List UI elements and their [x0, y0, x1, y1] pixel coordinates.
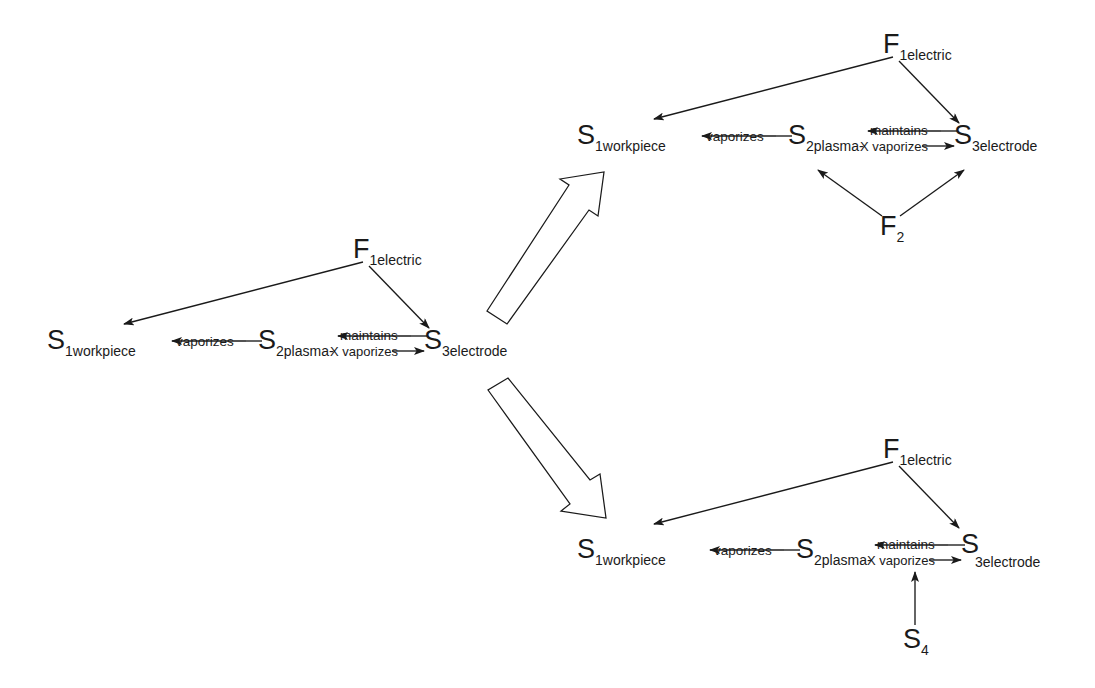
bottom-vaporizes-label: vaporizes [714, 544, 772, 558]
bottom-s4-symbol: S [903, 624, 921, 654]
top-vaporizes-label: vaporizes [706, 130, 764, 144]
base-vaporizes-label: vaporizes [176, 335, 234, 349]
base-s1-symbol: S [47, 325, 65, 355]
bottom-s2-symbol: S [796, 534, 814, 564]
block-arrow-down-right [488, 378, 606, 518]
base-field1-subscript: 1electric [370, 252, 422, 268]
bottom-field1-node: F1electric [883, 436, 952, 463]
bottom-s1-subscript: 1workpiece [595, 552, 666, 568]
base-f1-to-s3-arrow [369, 266, 429, 328]
base-s2-symbol: S [258, 325, 276, 355]
base-s3-symbol: S [424, 325, 442, 355]
top-f2-to-s3-arrow [900, 170, 964, 216]
bottom-s4-subscript: 4 [921, 642, 929, 658]
top-s1-symbol: S [577, 120, 595, 150]
bottom-s1-symbol: S [577, 534, 595, 564]
top-field1-subscript: 1electric [900, 47, 952, 63]
bottom-s2-subscript: 2plasma- [814, 552, 872, 568]
bottom-x-vaporizes-label: X vaporizes [867, 554, 935, 567]
bottom-f1-to-s3-arrow [899, 466, 959, 528]
bottom-s1-node: S1workpiece [577, 536, 666, 563]
connector-layer [0, 0, 1095, 688]
base-s1-node: S1workpiece [47, 327, 136, 354]
base-field1-node: F1electric [353, 236, 422, 263]
bottom-f1-to-s1-arrow [654, 462, 893, 524]
base-s1-subscript: 1workpiece [65, 343, 136, 359]
top-field2-node: F2 [880, 213, 904, 240]
top-maintains-label: maintains [870, 124, 928, 138]
top-f1-to-s3-arrow [899, 61, 959, 123]
top-s2-symbol: S [788, 120, 806, 150]
bottom-s3-node: S3electrode [961, 531, 1044, 558]
top-s2-subscript: 2plasma- [806, 138, 864, 154]
block-arrow-up-right [487, 172, 604, 324]
base-field1-symbol: F [353, 234, 370, 264]
base-s2-subscript: 2plasma- [276, 343, 334, 359]
top-s2-node: S2plasma- [788, 122, 864, 149]
top-s3-symbol: S [954, 120, 972, 150]
top-s3-node: S3electrode [954, 122, 1037, 149]
top-field1-node: F1electric [883, 31, 952, 58]
top-f2-to-s2-arrow [818, 170, 882, 216]
diagram-canvas: F1electric S1workpiece S2plasma- S3elect… [0, 0, 1095, 688]
top-field2-symbol: F [880, 211, 897, 241]
bottom-s4-node: S4 [903, 626, 929, 653]
base-s2-node: S2plasma- [258, 327, 334, 354]
top-s3-subscript: 3electrode [972, 138, 1037, 154]
bottom-field1-subscript: 1electric [900, 452, 952, 468]
top-s1-subscript: 1workpiece [595, 138, 666, 154]
top-f1-to-s1-arrow [654, 57, 893, 119]
bottom-field1-symbol: F [883, 434, 900, 464]
base-x-vaporizes-label: X vaporizes [330, 345, 398, 358]
top-field2-subscript: 2 [897, 229, 905, 245]
base-s3-node: S3electrode [424, 327, 507, 354]
base-maintains-label: maintains [340, 329, 398, 343]
top-x-vaporizes-label: X vaporizes [860, 140, 928, 153]
bottom-s3-subscript: 3electrode [975, 554, 1040, 570]
base-f1-to-s1-arrow [124, 262, 363, 324]
bottom-s2-node: S2plasma- [796, 536, 872, 563]
top-s1-node: S1workpiece [577, 122, 666, 149]
top-field1-symbol: F [883, 29, 900, 59]
base-s3-subscript: 3electrode [442, 343, 507, 359]
bottom-maintains-label: maintains [877, 538, 935, 552]
